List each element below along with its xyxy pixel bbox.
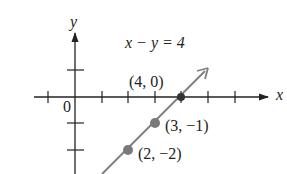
point-3-neg1: [150, 118, 160, 128]
equation-label: x − y = 4: [125, 35, 185, 51]
x-axis-label: x: [276, 87, 283, 103]
point-label-4-0: (4, 0): [129, 74, 164, 90]
point-4-0: [177, 93, 185, 101]
point-2-neg2: [123, 145, 133, 155]
y-axis-label: y: [70, 14, 77, 30]
point-label-3-neg1: (3, −1): [165, 118, 209, 134]
origin-label: 0: [63, 99, 71, 115]
point-label-2-neg2: (2, −2): [138, 146, 182, 162]
